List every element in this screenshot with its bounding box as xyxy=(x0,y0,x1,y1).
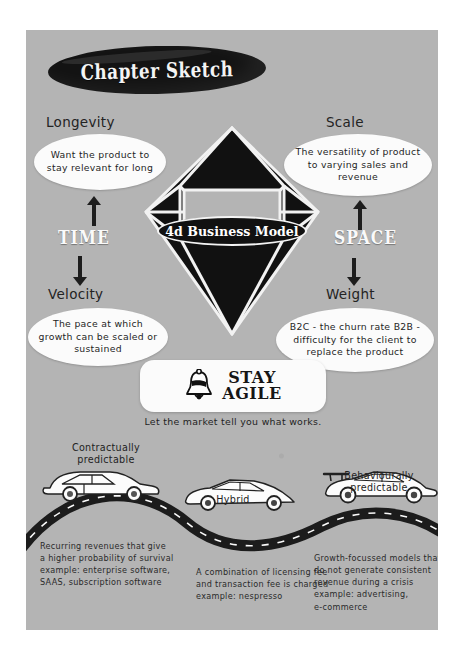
car-label-behaviourally-predictable: Behaviourally predictable xyxy=(314,470,438,494)
chapter-sketch-banner: Chapter Sketch xyxy=(48,46,266,94)
stay-agile-caption: Let the market tell you what works. xyxy=(140,416,326,427)
diamond-core-label: 4d Business Model xyxy=(157,216,307,246)
stay-agile-text: STAY AGILE xyxy=(222,370,282,403)
quadrant-heading-weight: Weight xyxy=(326,286,375,302)
stay-agile-line2: AGILE xyxy=(222,384,282,403)
car-label-contractually-predictable: Contractually predictable xyxy=(46,442,166,466)
axis-label-time: TIME xyxy=(58,226,110,248)
arrow-down-weight xyxy=(346,258,362,286)
banner-title: Chapter Sketch xyxy=(69,44,244,96)
quadrant-heading-scale: Scale xyxy=(326,114,364,130)
diamond-gem-graphic: 4d Business Model xyxy=(144,126,320,336)
note-behaviourally-predictable: Growth-focussed models that do not gener… xyxy=(314,552,438,613)
quadrant-heading-velocity: Velocity xyxy=(48,286,103,302)
bell-icon xyxy=(184,369,214,403)
axis-label-space: SPACE xyxy=(334,226,397,248)
quadrant-heading-longevity: Longevity xyxy=(46,114,115,130)
arrow-down-velocity xyxy=(72,256,88,286)
arrow-up-longevity xyxy=(86,196,102,226)
car-label-hybrid: Hybrid xyxy=(178,494,288,506)
note-contractually-predictable: Recurring revenues that give a higher pr… xyxy=(40,540,180,589)
stay-agile-card: STAY AGILE xyxy=(140,360,326,412)
chapter-sketch-poster: Chapter Sketch Longevity Want the produc… xyxy=(26,30,438,630)
